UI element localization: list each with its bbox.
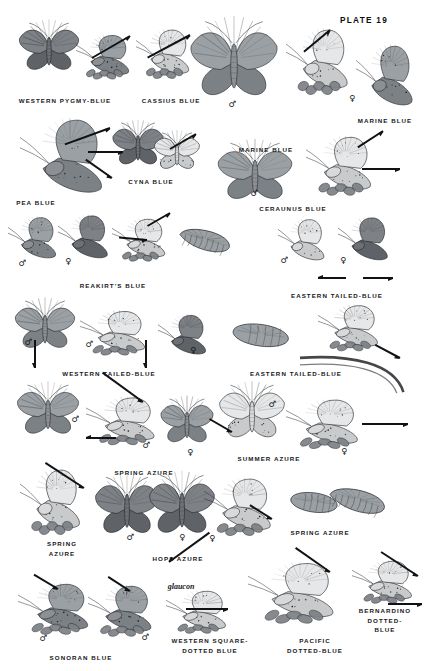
figure-spring-azure-dorsal-spread: [14, 384, 82, 438]
male-symbol-icon: ♂: [228, 100, 236, 109]
figure-western-tailed-blue-ventral-side: [158, 310, 214, 356]
female-symbol-icon: ♀: [187, 448, 193, 457]
pointer-shaft: [362, 168, 400, 169]
caption-sonoran-blue: SONORAN BLUE: [50, 653, 113, 663]
figure-spring-azure-dorsal-spread: [158, 398, 216, 446]
male-symbol-icon: ♂: [280, 256, 288, 265]
caption-reakirts-blue: REAKIRT'S BLUE: [80, 281, 146, 291]
caption-pacific-dotted-blue: PACIFIC DOTTED-BLUE: [287, 636, 343, 655]
plate-page: ♂♀♂♂♀♂♀♂♂♀♂♂♀♀♂♂♀♀♂♂ PLATE 19 WESTERN PY…: [0, 0, 428, 671]
figure-reakirts-blue-larva: [180, 214, 240, 258]
figure-bernardino-dotted-blue-ventral-perched: [352, 556, 422, 608]
arrowhead-icon: [318, 275, 323, 279]
caption-pea-blue: PEA BLUE: [16, 198, 55, 208]
caption-spring-azure-mid: SPRING AZURE: [114, 468, 173, 478]
plate-number: PLATE 19: [340, 16, 388, 25]
figure-eastern-tailed-blue-ventral-perched: [318, 300, 388, 356]
female-symbol-icon: ♀: [341, 447, 347, 456]
female-symbol-icon: ♀: [190, 346, 196, 355]
arrowhead-icon: [86, 435, 91, 439]
figure-summer-azure-dorsal-spread: [216, 384, 288, 442]
figure-spring-azure-ventral-perched: [86, 392, 166, 450]
figure-western-pygmy-blue-dorsal-spread: [16, 22, 82, 74]
caption-bernardino-dotted-blue: BERNARDINO DOTTED-BLUE: [359, 606, 411, 635]
figure-pea-blue-ventral-side: [20, 110, 116, 196]
male-symbol-icon: ♂: [142, 441, 150, 450]
male-symbol-icon: ♂: [250, 189, 258, 198]
caption-ceraunus-blue: CERAUNUS BLUE: [259, 204, 326, 214]
pointer-shaft: [362, 423, 408, 424]
figure-cassius-blue-dorsal-spread: [186, 20, 282, 102]
caption-western-pygmy-blue: WESTERN PYGMY-BLUE: [19, 96, 111, 106]
caption-spring-azure-left: SPRING AZURE: [47, 539, 77, 558]
arrowhead-icon: [378, 130, 384, 136]
figure-summer-azure-ventral-perched: [286, 394, 370, 454]
arrowhead-icon: [389, 277, 394, 281]
figure-reakirts-blue-ventral-side: [58, 210, 116, 260]
arrowhead-icon: [119, 151, 124, 155]
female-symbol-icon: ♀: [209, 534, 215, 543]
figure-eastern-tailed-blue-ventral-side: [338, 212, 396, 262]
caption-eastern-tailed-blue-lower: EASTERN TAILED-BLUE: [250, 369, 342, 379]
caption-hops-azure: HOPS AZURE: [153, 554, 204, 564]
pointer-shaft: [186, 608, 228, 609]
female-symbol-icon: ♀: [65, 257, 71, 266]
male-symbol-icon: ♂: [141, 633, 149, 642]
caption-cyna-blue: CYNA BLUE: [128, 177, 173, 187]
caption-cassius-blue: CASSIUS BLUE: [142, 96, 201, 106]
male-symbol-icon: ♂: [18, 259, 26, 268]
figure-marine-blue-ventral-side: [356, 38, 422, 108]
figure-western-tailed-blue-dorsal-spread: [12, 300, 78, 352]
figure-marine-blue-ventral-perched: [286, 22, 358, 102]
male-symbol-icon: ♂: [126, 533, 134, 542]
female-symbol-icon: ♀: [179, 533, 185, 542]
caption-eastern-tailed-blue-upper: EASTERN TAILED-BLUE: [291, 291, 383, 301]
figure-spring-azure-larva: [330, 472, 396, 520]
caption-marine-blue-mid: MARINE BLUE: [239, 145, 294, 155]
arrowhead-icon: [396, 168, 401, 172]
arrowhead-icon: [404, 423, 409, 427]
caption-summer-azure: SUMMER AZURE: [238, 454, 301, 464]
figure-reakirts-blue-ventral-side: [8, 212, 64, 260]
figure-pacific-dotted-blue-ventral-perched: [248, 556, 348, 630]
arrowhead-icon: [142, 238, 147, 242]
male-symbol-icon: ♂: [39, 634, 47, 643]
female-symbol-icon: ♀: [340, 256, 346, 265]
male-symbol-icon: ♂: [71, 415, 79, 424]
female-symbol-icon: ♀: [349, 94, 355, 103]
arrowhead-icon: [143, 364, 147, 369]
figure-eastern-tailed-blue-pupa: [232, 312, 294, 348]
arrowhead-icon: [224, 608, 229, 612]
figure-ceraunus-blue-ventral-perched: [306, 130, 382, 202]
figure-spring-azure-ventral-perched: [20, 462, 90, 542]
figure-western-square-dotted-blue-ventral-perched: [166, 586, 236, 638]
arrowhead-icon: [32, 364, 36, 369]
male-symbol-icon: ♂: [268, 400, 276, 409]
caption-spring-azure-right: SPRING AZURE: [290, 528, 349, 538]
figure-cyna-blue-ventral-spread: [152, 132, 202, 172]
figure-spring-azure-ventral-perched: [204, 472, 282, 542]
male-symbol-icon: ♂: [85, 340, 93, 349]
caption-western-tailed-blue: WESTERN TAILED-BLUE: [62, 369, 155, 379]
caption-western-square-dotted-blue: WESTERN SQUARE- DOTTED BLUE: [172, 636, 249, 655]
arrowhead-icon: [418, 603, 423, 607]
male-symbol-icon: ♂: [24, 338, 32, 347]
scientific-name-glaucon: glaucon: [168, 582, 195, 591]
pointer-shaft: [86, 437, 116, 438]
caption-marine-blue-top: MARINE BLUE: [358, 116, 413, 126]
